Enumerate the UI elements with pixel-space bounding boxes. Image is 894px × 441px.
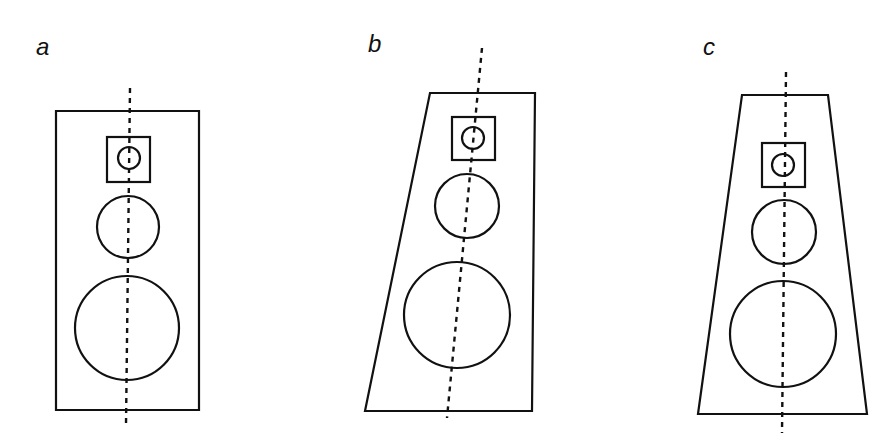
panel-label-a: a <box>36 33 49 60</box>
panel-a: a <box>36 33 199 425</box>
cabinet-slanted-trapezoid <box>365 93 535 411</box>
acoustic-axis-line <box>126 88 130 425</box>
acoustic-axis-line <box>782 72 786 433</box>
midrange-circle <box>435 174 499 238</box>
panel-label-c: c <box>703 33 715 60</box>
panel-label-b: b <box>368 30 381 57</box>
tweeter-circle <box>772 154 794 176</box>
panel-b: b <box>365 30 535 418</box>
tweeter-box <box>762 143 805 187</box>
panel-c: c <box>698 33 867 433</box>
acoustic-axis-line <box>447 48 482 418</box>
speaker-diagram: a b c <box>0 0 894 441</box>
woofer-circle <box>404 262 510 368</box>
